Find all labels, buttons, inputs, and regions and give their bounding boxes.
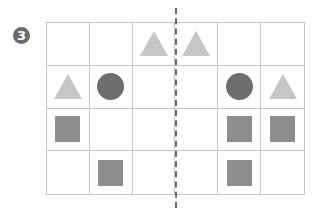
square-shape — [227, 160, 252, 186]
grid-cell-r1-c5 — [218, 23, 261, 66]
square-shape — [270, 116, 295, 142]
grid-cell-r1-c2 — [90, 23, 133, 66]
grid-cell-r2-c4 — [175, 66, 218, 109]
grid-cell-r3-c4 — [175, 109, 218, 152]
symmetry-axis-dashed-line — [175, 8, 177, 208]
grid-cell-r2-c2 — [90, 66, 133, 109]
triangle-shape — [54, 74, 82, 99]
grid-cell-r1-c3 — [133, 23, 176, 66]
grid-cell-r2-c3 — [133, 66, 176, 109]
triangle-shape — [140, 31, 168, 56]
grid-cell-r4-c3 — [133, 151, 176, 194]
circle-shape — [226, 73, 253, 100]
problem-number-badge: 3 — [13, 27, 30, 44]
square-shape — [98, 160, 123, 186]
grid-cell-r4-c4 — [175, 151, 218, 194]
triangle-shape — [269, 74, 297, 99]
grid-cell-r3-c1 — [47, 109, 90, 152]
square-shape — [227, 116, 252, 142]
grid-cell-r1-c1 — [47, 23, 90, 66]
circle-shape — [97, 73, 124, 100]
grid-cell-r4-c1 — [47, 151, 90, 194]
grid-cell-r4-c5 — [218, 151, 261, 194]
grid-cell-r3-c3 — [133, 109, 176, 152]
grid-cell-r3-c6 — [261, 109, 304, 152]
grid-cell-r2-c1 — [47, 66, 90, 109]
grid-cell-r1-c4 — [175, 23, 218, 66]
triangle-shape — [182, 31, 210, 56]
grid-cell-r1-c6 — [261, 23, 304, 66]
square-shape — [55, 116, 80, 142]
grid-cell-r2-c6 — [261, 66, 304, 109]
grid-cell-r3-c2 — [90, 109, 133, 152]
grid-cell-r3-c5 — [218, 109, 261, 152]
grid-cell-r4-c2 — [90, 151, 133, 194]
grid-cell-r4-c6 — [261, 151, 304, 194]
grid-cell-r2-c5 — [218, 66, 261, 109]
